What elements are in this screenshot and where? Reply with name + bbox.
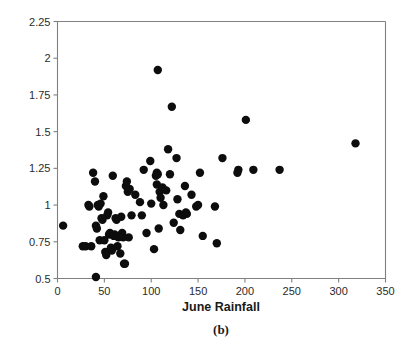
x-tick-label: 50: [98, 285, 110, 297]
x-tick-label: 250: [283, 285, 301, 297]
data-point: [91, 177, 99, 185]
data-point: [142, 229, 150, 237]
data-point: [181, 182, 189, 190]
x-axis-ticks: 050100150200250300350: [54, 279, 394, 297]
data-point: [249, 166, 257, 174]
data-point: [89, 169, 97, 177]
data-point: [87, 242, 95, 250]
y-tick-label: 1.25: [29, 162, 50, 174]
data-point: [125, 233, 133, 241]
x-tick-label: 300: [329, 285, 347, 297]
data-point: [156, 194, 164, 202]
data-point: [146, 157, 154, 165]
data-point: [196, 169, 204, 177]
data-point: [154, 170, 162, 178]
data-point: [211, 202, 219, 210]
x-tick-label: 150: [189, 285, 207, 297]
data-point: [136, 198, 144, 206]
data-point: [183, 210, 191, 218]
data-point: [351, 139, 359, 147]
data-point: [140, 166, 148, 174]
data-point: [92, 273, 100, 281]
data-point: [131, 191, 139, 199]
data-point: [155, 224, 163, 232]
data-point: [150, 245, 158, 253]
y-tick-label: 1.75: [29, 89, 50, 101]
data-point: [172, 154, 180, 162]
data-point: [213, 239, 221, 247]
data-point: [99, 192, 107, 200]
data-point: [162, 186, 170, 194]
data-point: [59, 221, 67, 229]
y-tick-label: 2: [44, 52, 50, 64]
y-axis-ticks: 0.50.7511.251.51.7522.25: [29, 16, 57, 285]
scatter-plot: 0.50.7511.251.51.7522.250501001502002503…: [0, 0, 411, 346]
y-tick-label: 1: [44, 199, 50, 211]
data-point: [168, 102, 176, 110]
data-point: [170, 218, 178, 226]
y-tick-label: 0.5: [35, 273, 50, 285]
x-tick-label: 100: [142, 285, 160, 297]
data-point: [127, 211, 135, 219]
data-point: [166, 170, 174, 178]
figure-caption: (b): [57, 322, 385, 338]
figure-container: Annual Ring Width 0.50.7511.251.51.7522.…: [0, 0, 411, 346]
data-point: [275, 166, 283, 174]
y-tick-label: 1.5: [35, 126, 50, 138]
data-point: [109, 172, 117, 180]
data-point: [176, 226, 184, 234]
data-point: [121, 260, 129, 268]
y-tick-label: 0.75: [29, 236, 50, 248]
x-tick-label: 350: [376, 285, 394, 297]
data-point: [234, 166, 242, 174]
data-point: [147, 199, 155, 207]
data-point: [154, 66, 162, 74]
data-point: [138, 211, 146, 219]
y-tick-label: 2.25: [29, 16, 50, 28]
data-point: [199, 232, 207, 240]
data-point: [164, 145, 172, 153]
data-point: [123, 177, 131, 185]
x-tick-label: 200: [236, 285, 254, 297]
data-point: [194, 201, 202, 209]
data-point: [117, 213, 125, 221]
data-point: [85, 202, 93, 210]
x-tick-label: 0: [54, 285, 60, 297]
data-point: [173, 195, 181, 203]
data-point: [187, 191, 195, 199]
x-axis-title: June Rainfall: [57, 300, 385, 315]
data-point: [104, 208, 112, 216]
data-point: [159, 201, 167, 209]
data-point: [218, 154, 226, 162]
data-point: [113, 242, 121, 250]
data-point: [116, 249, 124, 257]
data-point: [96, 199, 104, 207]
data-points: [59, 66, 360, 281]
data-point: [242, 116, 250, 124]
data-point: [93, 224, 101, 232]
